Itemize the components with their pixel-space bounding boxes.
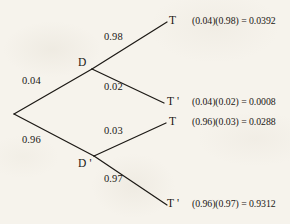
- probability-label-d-t: 0.98: [104, 32, 123, 43]
- outcome-expression-2: (0.04)(0.02) = 0.0008: [192, 97, 276, 107]
- leaf-label-t-2: T: [169, 116, 176, 128]
- leaf-label-tprime-1: T ': [167, 96, 179, 108]
- branch-line-d-to-tprime: [92, 69, 164, 103]
- probability-tree-diagram: 0.04 0.96 D D ' 0.98 0.02 0.03 0.97 T T …: [0, 0, 290, 224]
- leaf-label-t-1: T: [169, 15, 176, 27]
- node-label-d: D: [78, 57, 87, 69]
- leaf-label-tprime-2: T ': [167, 198, 179, 210]
- probability-label-d: 0.04: [22, 76, 41, 87]
- branch-line-d-to-t: [92, 22, 167, 69]
- outcome-expression-4: (0.96)(0.97) = 0.9312: [192, 199, 276, 209]
- outcome-expression-1: (0.04)(0.98) = 0.0392: [192, 16, 276, 26]
- probability-label-d-tprime: 0.02: [104, 82, 123, 93]
- probability-label-dprime: 0.96: [22, 135, 41, 146]
- tree-branch-lines: [0, 0, 290, 224]
- probability-label-dprime-t: 0.03: [104, 126, 123, 137]
- outcome-expression-3: (0.96)(0.03) = 0.0288: [192, 117, 276, 127]
- probability-label-dprime-tprime: 0.97: [104, 174, 123, 185]
- node-label-dprime: D ': [78, 158, 92, 170]
